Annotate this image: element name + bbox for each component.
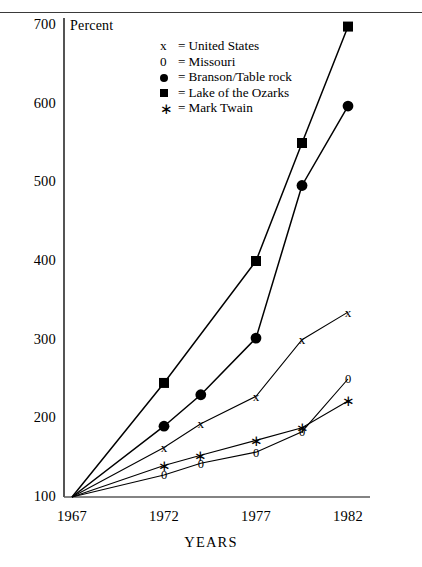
legend-asterisk-icon: ∗ xyxy=(160,100,175,116)
marker-x: x xyxy=(299,332,306,347)
x-tick-label: 1977 xyxy=(230,508,282,525)
legend-equals: = xyxy=(175,100,188,116)
y-tick-label: 300 xyxy=(18,331,56,348)
legend-text-key: x xyxy=(160,38,175,54)
marker-asterisk: ∗ xyxy=(194,448,207,464)
x-tick-label: 1982 xyxy=(322,508,374,525)
legend-equals: = xyxy=(175,69,188,85)
legend-equals: = xyxy=(175,54,188,70)
y-tick-label: 200 xyxy=(18,409,56,426)
marker-asterisk: ∗ xyxy=(250,433,263,449)
marker-x: x xyxy=(161,440,168,455)
series-line xyxy=(72,379,348,497)
legend-circle-icon xyxy=(160,69,175,85)
marker-filled-circle xyxy=(251,333,262,344)
legend-entry: =Branson/Table rock xyxy=(160,69,292,85)
legend-label: Branson/Table rock xyxy=(188,69,291,85)
marker-asterisk: ∗ xyxy=(296,420,309,436)
marker-zero: 0 xyxy=(345,372,351,386)
marker-asterisk: ∗ xyxy=(158,458,171,474)
legend-label: United States xyxy=(188,38,259,54)
series-line xyxy=(72,106,348,497)
marker-filled-circle xyxy=(159,421,170,432)
marker-filled-square xyxy=(297,138,307,148)
marker-filled-square xyxy=(343,22,353,32)
legend-entry: x=United States xyxy=(160,38,292,54)
marker-filled-square xyxy=(251,256,261,266)
marker-filled-circle xyxy=(343,101,354,112)
legend-text-key: 0 xyxy=(160,54,175,70)
marker-filled-circle xyxy=(297,180,308,191)
x-tick-label: 1972 xyxy=(138,508,190,525)
series-line xyxy=(72,312,348,497)
legend-equals: = xyxy=(175,85,188,101)
y-tick-label: 400 xyxy=(18,252,56,269)
marker-x: x xyxy=(198,416,205,431)
y-tick-label: 600 xyxy=(18,95,56,112)
marker-filled-circle xyxy=(195,389,206,400)
marker-asterisk: ∗ xyxy=(342,393,355,409)
y-tick-label: 100 xyxy=(18,488,56,505)
legend-entry: 0=Missouri xyxy=(160,54,292,70)
marker-filled-square xyxy=(159,378,169,388)
legend-label: Mark Twain xyxy=(188,100,252,116)
chart-legend: x=United States0=Missouri=Branson/Table … xyxy=(160,38,292,116)
y-tick-label: 500 xyxy=(18,173,56,190)
chart-figure: Percent xxxxx00000∗∗∗∗∗ 7006005004003002… xyxy=(0,0,422,567)
y-tick-label: 700 xyxy=(18,16,56,33)
legend-label: Lake of the Ozarks xyxy=(188,85,289,101)
series-line xyxy=(72,401,348,497)
legend-square-icon xyxy=(160,85,175,101)
legend-entry: =Lake of the Ozarks xyxy=(160,85,292,101)
x-tick-label: 1967 xyxy=(46,508,98,525)
legend-equals: = xyxy=(175,38,188,54)
marker-x: x xyxy=(345,305,352,320)
marker-x: x xyxy=(253,389,260,404)
legend-entry: ∗=Mark Twain xyxy=(160,100,292,116)
legend-label: Missouri xyxy=(188,54,235,70)
x-axis-title: YEARS xyxy=(0,534,422,551)
